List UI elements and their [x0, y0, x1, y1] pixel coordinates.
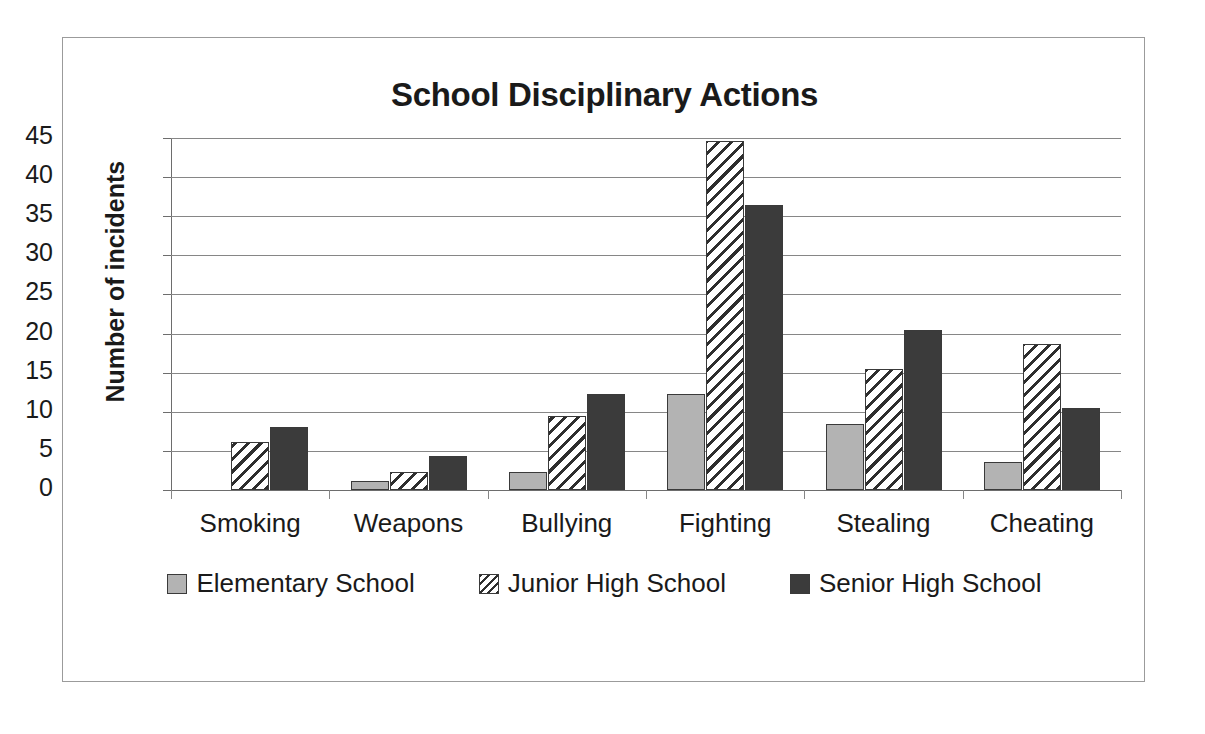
- bar: [984, 462, 1022, 490]
- y-tick-mark: [163, 177, 171, 178]
- gridline: [171, 255, 1121, 256]
- y-tick-label: 20: [0, 317, 53, 346]
- bar: [270, 427, 308, 490]
- bar: [509, 472, 547, 490]
- x-axis-label: Weapons: [329, 508, 487, 539]
- x-tick-mark: [488, 490, 489, 499]
- solid-dark-gray-square-icon: [790, 574, 810, 594]
- gridline: [171, 451, 1121, 452]
- y-tick-mark: [163, 294, 171, 295]
- y-tick-mark: [163, 334, 171, 335]
- x-axis-label: Bullying: [488, 508, 646, 539]
- x-tick-mark: [804, 490, 805, 499]
- y-tick-mark: [163, 138, 171, 139]
- y-tick-label: 15: [0, 356, 53, 385]
- y-axis-title: Number of incidents: [101, 173, 130, 403]
- legend-item[interactable]: Elementary School: [167, 568, 414, 599]
- legend-label: Senior High School: [819, 568, 1042, 599]
- x-axis-label: Smoking: [171, 508, 329, 539]
- x-tick-mark: [1121, 490, 1122, 499]
- gridline: [171, 177, 1121, 178]
- y-tick-label: 0: [0, 473, 53, 502]
- x-axis-label: Stealing: [804, 508, 962, 539]
- bar: [706, 141, 744, 490]
- bar: [429, 456, 467, 490]
- chart-legend: Elementary SchoolJunior High SchoolSenio…: [63, 568, 1146, 599]
- x-axis-label: Cheating: [963, 508, 1121, 539]
- x-tick-mark: [329, 490, 330, 499]
- y-tick-label: 30: [0, 238, 53, 267]
- y-tick-label: 40: [0, 160, 53, 189]
- x-tick-mark: [171, 490, 172, 499]
- bar: [1062, 408, 1100, 490]
- solid-light-gray-square-icon: [167, 574, 187, 594]
- bar: [390, 472, 428, 490]
- bar: [865, 369, 903, 490]
- y-tick-mark: [163, 216, 171, 217]
- y-tick-mark: [163, 373, 171, 374]
- legend-item[interactable]: Senior High School: [790, 568, 1042, 599]
- y-tick-mark: [163, 255, 171, 256]
- legend-label: Junior High School: [508, 568, 726, 599]
- x-axis-label: Fighting: [646, 508, 804, 539]
- y-axis-line: [171, 138, 172, 490]
- y-tick-label: 25: [0, 277, 53, 306]
- y-tick-label: 35: [0, 199, 53, 228]
- bar: [826, 424, 864, 490]
- bar: [587, 394, 625, 490]
- bar: [667, 394, 705, 490]
- bar: [904, 330, 942, 490]
- chart-title: School Disciplinary Actions: [63, 76, 1146, 114]
- gridline: [171, 334, 1121, 335]
- y-tick-mark: [163, 412, 171, 413]
- bar: [548, 416, 586, 490]
- y-tick-mark: [163, 451, 171, 452]
- y-tick-label: 10: [0, 395, 53, 424]
- x-tick-mark: [963, 490, 964, 499]
- legend-item[interactable]: Junior High School: [479, 568, 726, 599]
- bar: [745, 205, 783, 490]
- bar: [351, 481, 389, 490]
- bar: [231, 442, 269, 490]
- y-tick-label: 45: [0, 121, 53, 150]
- gridline: [171, 373, 1121, 374]
- gridline: [171, 138, 1121, 139]
- chart-frame: School Disciplinary Actions Number of in…: [62, 37, 1145, 682]
- gridline: [171, 294, 1121, 295]
- y-tick-label: 5: [0, 434, 53, 463]
- y-tick-mark: [163, 490, 171, 491]
- bar: [1023, 344, 1061, 490]
- diagonal-hatch-square-icon: [479, 574, 499, 594]
- x-tick-mark: [646, 490, 647, 499]
- gridline: [171, 216, 1121, 217]
- plot-area: 454035302520151050: [171, 138, 1121, 490]
- gridline: [171, 412, 1121, 413]
- legend-label: Elementary School: [196, 568, 414, 599]
